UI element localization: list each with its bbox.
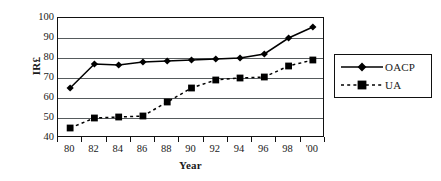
legend-item-oacp[interactable]: OACP: [340, 59, 428, 75]
data-point-diamond: [139, 58, 146, 65]
data-point-square: [237, 75, 244, 82]
legend-item-ua[interactable]: UA: [340, 77, 428, 93]
series-layer: [58, 18, 325, 138]
x-axis-tick: [178, 137, 179, 142]
data-point-square: [309, 57, 316, 64]
x-axis-tick: [275, 137, 276, 142]
y-axis-tick-label: 70: [28, 72, 54, 82]
series-oacp: [67, 23, 317, 91]
data-point-square: [115, 114, 122, 121]
x-axis-title: Year: [57, 159, 324, 171]
chart-figure: IR£ 405060708090100 80828486889092949698…: [0, 0, 441, 181]
x-axis-tick: [324, 137, 325, 142]
data-point-square: [67, 125, 74, 132]
x-axis-tick: [130, 137, 131, 142]
legend-swatch-solid-diamond-icon: [340, 60, 384, 74]
data-point-diamond: [188, 56, 195, 63]
data-point-square: [285, 63, 292, 70]
chart-legend: OACP UA: [334, 54, 432, 98]
data-point-diamond: [115, 61, 122, 68]
series-ua: [67, 57, 317, 132]
y-axis-tick-label: 50: [28, 112, 54, 122]
legend-label: OACP: [384, 62, 415, 73]
data-point-square: [164, 99, 171, 106]
y-axis-tick-labels: 405060708090100: [28, 0, 54, 181]
plot-area: [57, 17, 324, 137]
y-axis-tick-label: 100: [28, 12, 54, 22]
series-line: [70, 60, 313, 128]
data-point-square: [188, 85, 195, 92]
x-axis-tick: [106, 137, 107, 142]
y-axis-tick-label: 80: [28, 52, 54, 62]
data-point-diamond: [212, 55, 219, 62]
y-axis-tick-label: 90: [28, 32, 54, 42]
data-point-square: [91, 115, 98, 122]
data-point-diamond: [164, 57, 171, 64]
x-axis-tick: [251, 137, 252, 142]
data-point-square: [261, 74, 268, 81]
x-axis-tick: [154, 137, 155, 142]
x-axis-tick: [203, 137, 204, 142]
x-axis-tick: [227, 137, 228, 142]
y-axis-tick-label: 40: [28, 132, 54, 142]
x-axis-tick-label: '00: [295, 143, 329, 155]
x-axis-tick: [81, 137, 82, 142]
x-axis-tick: [300, 137, 301, 142]
data-point-diamond: [236, 54, 243, 61]
data-point-square: [140, 113, 147, 120]
y-axis-tick-label: 60: [28, 92, 54, 102]
data-point-diamond: [309, 23, 316, 30]
legend-label: UA: [384, 80, 401, 91]
x-axis-tick: [57, 137, 58, 142]
data-point-square: [212, 77, 219, 84]
legend-swatch-dashed-square-icon: [340, 78, 384, 92]
x-axis-tick-labels: 80828486889092949698'00: [57, 143, 324, 159]
